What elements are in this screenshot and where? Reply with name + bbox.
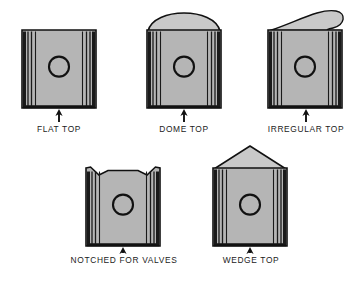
- caption-irregular-top: IRREGULAR TOP: [258, 124, 354, 134]
- caption-notched-for-valves: NOTCHED FOR VALVES: [60, 255, 188, 265]
- pointer-arrow-notched-for-valves: [119, 247, 126, 254]
- caption-wedge-top: WEDGE TOP: [206, 255, 296, 265]
- piston-dome-top: [147, 13, 221, 108]
- piston-body: [268, 30, 342, 108]
- piston-irregular-top: [268, 11, 343, 108]
- irregular-crown: [270, 11, 343, 31]
- piston-body: [86, 167, 160, 246]
- piston-notched-for-valves: [86, 167, 160, 246]
- piston-body: [147, 30, 221, 108]
- piston-wedge-top: [213, 146, 287, 246]
- wedge-crown: [214, 146, 286, 169]
- pointer-arrow-flat-top: [55, 109, 62, 122]
- diagram-canvas: [0, 0, 362, 283]
- caption-dome-top: DOME TOP: [144, 124, 224, 134]
- pointer-arrow-dome-top: [180, 109, 187, 122]
- pointer-arrow-wedge-top: [246, 247, 253, 254]
- piston-types-diagram: FLAT TOPDOME TOPIRREGULAR TOPNOTCHED FOR…: [0, 0, 362, 283]
- piston-body: [213, 168, 287, 246]
- piston-flat-top: [22, 30, 96, 108]
- dome-crown: [148, 13, 220, 31]
- caption-flat-top: FLAT TOP: [20, 124, 98, 134]
- pointer-arrow-irregular-top: [302, 109, 309, 122]
- piston-body: [22, 30, 96, 108]
